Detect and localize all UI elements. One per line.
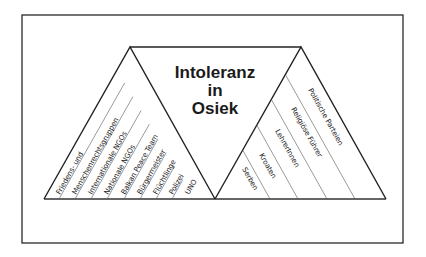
label-serben: Serben [240,166,260,192]
label-uno: UNO [183,177,199,196]
intolerance-diagram: Intoleranz in Osiek Friedens- und Mensch… [0,0,426,257]
title-line-1: Intoleranz [175,63,255,82]
diagram-title: Intoleranz in Osiek [175,63,255,118]
right-divider [285,75,355,199]
title-line-2: in [207,81,222,100]
title-line-3: Osiek [192,99,239,118]
outer-frame [22,15,403,243]
right-labels: Serben Kroaten LehrerInnen Religiöse Füh… [240,87,345,192]
label-kroaten: Kroaten [257,152,278,180]
left-labels: Friedens- und Menschenrechtsgruppen Inte… [54,116,199,196]
